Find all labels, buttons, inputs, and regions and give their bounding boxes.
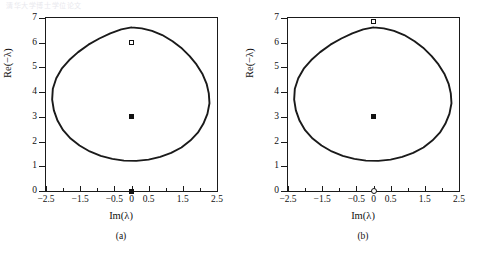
y-axis-tick: [281, 166, 287, 167]
subcaption-b: (b): [242, 231, 484, 241]
x-axis-tick: [200, 188, 201, 191]
y-axis-tick-label: 6: [9, 38, 37, 48]
x-axis-tick: [288, 186, 289, 191]
y-axis-tick-label: 2: [251, 137, 279, 147]
open-square-marker: [129, 40, 134, 45]
y-axis-tick: [281, 92, 287, 93]
y-axis-tick: [281, 117, 287, 118]
y-axis-tick: [281, 18, 287, 19]
y-axis-tick-label: 5: [9, 62, 37, 72]
filled-square-marker: [129, 114, 134, 119]
subcaption-a: (a): [0, 231, 242, 241]
x-axis-tick: [97, 188, 98, 191]
y-axis-tick: [39, 117, 45, 118]
x-axis-tick: [114, 186, 115, 191]
x-axis-tick: [149, 186, 150, 191]
stability-boundary-curve: [52, 27, 209, 160]
x-axis-tick: [356, 186, 357, 191]
x-axis-tick-label: 1.5: [168, 195, 198, 205]
y-axis-tick-label: 4: [251, 87, 279, 97]
curve-svg-b: [288, 18, 459, 191]
x-axis-tick-label: 2.5: [444, 195, 474, 205]
y-axis-tick-label: 4: [9, 87, 37, 97]
x-axis-tick: [459, 186, 460, 191]
origin-marker: [129, 189, 134, 194]
x-axis-tick: [217, 186, 218, 191]
origin-marker: [371, 188, 377, 194]
y-axis-tick-label: 3: [9, 112, 37, 122]
filled-square-marker: [371, 114, 376, 119]
x-axis-tick: [80, 186, 81, 191]
y-axis-tick-label: 1: [9, 161, 37, 171]
x-axis-tick-label: −2.5: [31, 195, 61, 205]
y-axis-tick-label: 2: [9, 137, 37, 147]
x-axis-tick: [425, 186, 426, 191]
x-axis-tick-label: −2.5: [273, 195, 303, 205]
x-axis-tick: [305, 188, 306, 191]
x-axis-tick: [46, 186, 47, 191]
figure-a: Re(−λ) Im(λ) (a) 01234567−2.5−1.5−0.500.…: [0, 0, 242, 256]
x-axis-tick: [408, 188, 409, 191]
y-axis-tick: [281, 191, 287, 192]
x-axis-title-a: Im(λ): [0, 210, 242, 221]
open-square-marker: [371, 19, 376, 24]
x-axis-tick: [339, 188, 340, 191]
x-axis-tick-label: −1.5: [65, 195, 95, 205]
x-axis-tick-label: −1.5: [307, 195, 337, 205]
y-axis-tick-label: 5: [251, 62, 279, 72]
y-axis-tick: [39, 191, 45, 192]
y-axis-tick-label: 6: [251, 38, 279, 48]
x-axis-tick-label: 0.5: [134, 195, 164, 205]
x-axis-tick-label: 1.5: [410, 195, 440, 205]
y-axis-tick-label: 7: [251, 13, 279, 23]
x-axis-tick-label: 2.5: [202, 195, 232, 205]
y-axis-tick-label: 1: [251, 161, 279, 171]
y-axis-tick: [39, 166, 45, 167]
x-axis-tick: [183, 186, 184, 191]
x-axis-tick: [391, 186, 392, 191]
y-axis-tick: [39, 18, 45, 19]
x-axis-title-b: Im(λ): [242, 210, 484, 221]
figure-b: Re(−λ) Im(λ) (b) 01234567−2.5−1.5−0.500.…: [242, 0, 484, 256]
y-axis-tick: [281, 67, 287, 68]
x-axis-tick: [166, 188, 167, 191]
plot-area-b: [287, 17, 460, 192]
x-axis-tick: [322, 186, 323, 191]
y-axis-tick: [281, 142, 287, 143]
y-axis-tick-label: 7: [9, 13, 37, 23]
y-axis-tick: [39, 92, 45, 93]
stability-boundary-curve: [294, 27, 451, 160]
figure-page: 清华大学博士学位论文 Re(−λ) Im(λ) (a) 01234567−2.5…: [0, 0, 484, 256]
y-axis-tick: [39, 43, 45, 44]
x-axis-tick: [63, 188, 64, 191]
y-axis-tick-label: 3: [251, 112, 279, 122]
y-axis-tick: [39, 142, 45, 143]
y-axis-tick: [281, 43, 287, 44]
y-axis-tick: [39, 67, 45, 68]
x-axis-tick-label: 0.5: [376, 195, 406, 205]
x-axis-tick: [442, 188, 443, 191]
